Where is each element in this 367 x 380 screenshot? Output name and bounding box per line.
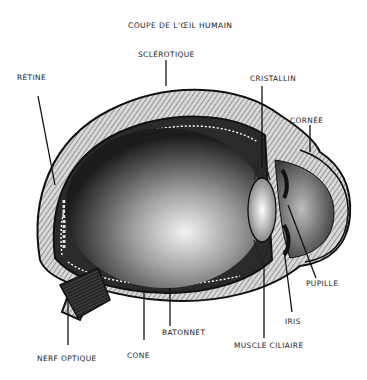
vitreous-body (65, 128, 265, 288)
label-cone: CONE (127, 352, 150, 359)
diagram-title: COUPE DE L'ŒIL HUMAIN (128, 22, 232, 30)
label-iris: IRIS (285, 318, 301, 325)
label-cornee: CORNÉE (290, 117, 323, 124)
label-sclerotique: SCLÉROTIQUE (138, 51, 195, 58)
label-pupille: PUPILLE (306, 280, 338, 287)
label-cristallin: CRISTALLIN (250, 75, 296, 82)
label-retine: RÉTINE (17, 74, 46, 81)
label-nerf-optique: NERF OPTIQUE (37, 355, 97, 362)
label-muscle-ciliaire: MUSCLE CILIAIRE (234, 342, 303, 349)
label-batonnet: BATONNET (162, 329, 205, 336)
